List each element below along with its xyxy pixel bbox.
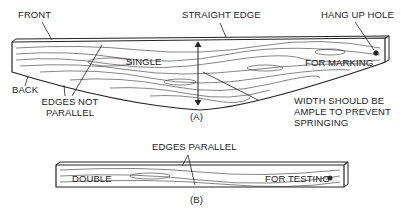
caption-a: (A) — [190, 111, 203, 122]
label-hang-up-hole: HANG UP HOLE — [321, 9, 394, 20]
label-edges-not-parallel: EDGES NOT PARALLEL — [40, 96, 100, 118]
label-for-marking: FOR MARKING — [305, 57, 373, 68]
label-straight-edge: STRAIGHT EDGE — [182, 9, 261, 20]
label-double: DOUBLE — [72, 173, 112, 184]
label-edges-parallel: EDGES PARALLEL — [152, 141, 237, 152]
label-width-ample: WIDTH SHOULD BE AMPLE TO PREVENT SPRINGI… — [294, 95, 391, 128]
label-single: SINGLE — [126, 56, 161, 67]
label-front: FRONT — [18, 9, 51, 20]
label-back: BACK — [12, 84, 38, 95]
label-for-testing: FOR TESTING — [265, 173, 330, 184]
caption-b: (B) — [190, 194, 203, 205]
